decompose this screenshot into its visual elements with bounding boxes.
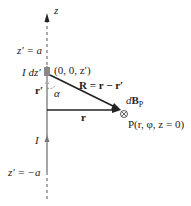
current-label: I [35,135,39,146]
z-axis-label: z [54,5,58,16]
current-arrow-icon [45,135,50,142]
field-subscript: P [139,100,143,109]
current-element-label: I dz′ [22,67,41,78]
current-element [44,67,50,76]
bottom-limit-label: z′ = −a [8,167,41,178]
r-vector-label: r [81,112,86,123]
top-limit-label: z′ = a [17,45,42,56]
field-label: dBP [126,95,143,109]
field-label-B: B [132,94,139,106]
r-prime-label: r′ [35,85,43,96]
point-label: P(r, φ, z = 0) [128,119,184,130]
r-prime-arrow-icon [45,78,49,84]
z-axis-arrow-icon [45,13,50,22]
R-vector-label: R = r − r′ [79,80,123,91]
source-point-label: (0, 0, z′) [54,65,91,76]
alpha-label: α [54,88,60,99]
